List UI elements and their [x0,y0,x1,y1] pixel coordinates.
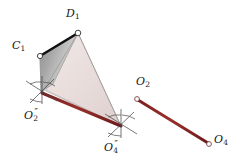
label-O2-base: O [136,75,145,88]
label-O4: O4 [214,134,228,147]
label-D1-subscript: 1 [75,12,80,21]
label-O4pp-base: O [104,141,113,154]
vertex-point-O4 [207,142,212,147]
label-D1: D1 [66,8,80,21]
label-O2pp-base: O [24,109,33,122]
vertex-point-D1 [75,30,81,36]
label-O4-base: O [214,133,223,146]
label-C1: C1 [12,40,25,53]
label-O2: O2 [136,76,150,89]
geometric-figure: C1 D1 O2″ O4″ O2 O4 [0,0,242,168]
label-O2pp-primes: ″ [34,107,37,117]
vertex-point-C1 [37,53,42,58]
vertex-point-O2 [135,97,140,102]
label-D1-base: D [66,7,75,20]
label-C1-base: C [12,39,20,52]
label-C1-subscript: 1 [21,44,26,53]
axis-line-plain [138,100,208,143]
figure-canvas [0,0,242,168]
label-O2-subscript: 2 [145,80,150,89]
label-O4-double-prime: O4″ [104,140,117,154]
label-O4pp-primes: ″ [114,139,117,149]
label-O4-subscript: 4 [223,138,228,147]
label-O2-double-prime: O2″ [24,108,37,122]
